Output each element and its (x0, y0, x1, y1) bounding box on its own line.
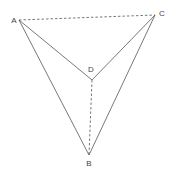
segment-ab (19, 20, 89, 155)
segment-ad (19, 20, 92, 80)
geometry-diagram: A B C D (0, 0, 171, 175)
label-c: C (159, 9, 165, 18)
label-d: D (88, 65, 94, 74)
segment-cd (92, 15, 155, 80)
label-a: A (11, 16, 17, 25)
segment-ac (19, 15, 155, 20)
segment-db (89, 80, 92, 155)
segment-cb (89, 15, 155, 155)
segments (19, 15, 155, 155)
label-b: B (86, 159, 91, 168)
